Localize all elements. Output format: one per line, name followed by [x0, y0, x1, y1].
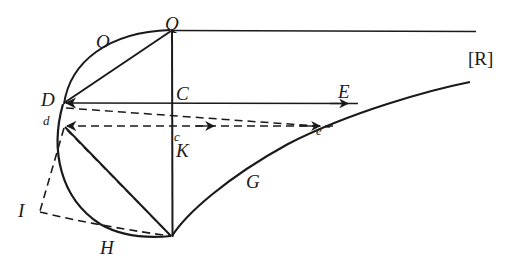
point-label-c: C [176, 84, 189, 103]
point-label-r: [R] [468, 49, 493, 68]
figure-canvas [0, 0, 509, 258]
point-label-d: d [43, 114, 50, 127]
point-label-d: D [41, 90, 55, 109]
point-label-h: H [100, 238, 114, 257]
arc-d-h-bottom [58, 104, 171, 237]
geometric-figure: QO[R]CEDdceKGIH [0, 0, 509, 258]
dashed-line-d-to-e [66, 108, 330, 127]
line-d-c-e [66, 103, 358, 104]
line-q-right [172, 31, 476, 32]
point-label-e: e [316, 124, 322, 137]
point-label-o: O [96, 32, 110, 51]
point-label-g: G [246, 172, 260, 191]
curve-g [172, 82, 470, 236]
point-label-i: I [18, 201, 24, 220]
vertical-axis-q-bottom [172, 30, 173, 237]
point-label-e: E [338, 82, 350, 101]
point-label-k: K [176, 141, 189, 160]
point-label-q: Q [165, 14, 179, 33]
